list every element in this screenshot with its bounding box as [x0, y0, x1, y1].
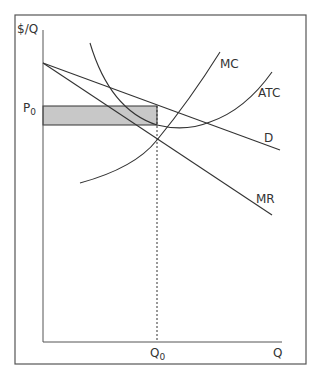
profit-area: [43, 106, 157, 125]
q0-main: Q: [150, 346, 159, 360]
q0-label: Q0: [150, 346, 165, 362]
p0-label: P0: [23, 101, 36, 117]
monopoly-diagram: $/Q Q MC ATC D MR P0 Q0: [0, 0, 319, 381]
x-axis-label: Q: [273, 346, 282, 360]
mc-label: MC: [220, 57, 239, 71]
q0-subscript: 0: [159, 352, 165, 362]
p0-main: P: [23, 101, 30, 115]
mr-label: MR: [256, 192, 275, 206]
y-axis-label: $/Q: [17, 22, 38, 36]
p0-subscript: 0: [30, 107, 36, 117]
atc-label: ATC: [258, 86, 280, 100]
demand-label: D: [264, 131, 273, 145]
figure-frame: [15, 15, 306, 364]
